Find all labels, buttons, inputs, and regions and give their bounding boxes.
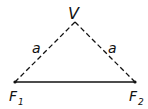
diagram: V a a F 1 F 2 <box>0 0 148 109</box>
focus1-label: F <box>9 88 18 104</box>
focus2-label: F <box>129 88 138 104</box>
side-right-label: a <box>108 40 117 56</box>
side-v-f1 <box>15 22 75 82</box>
focus2-subscript: 2 <box>138 97 144 107</box>
point-f2 <box>133 80 136 83</box>
point-f1 <box>13 80 16 83</box>
side-v-f2 <box>75 22 135 82</box>
vertex-label: V <box>68 4 80 23</box>
side-left-label: a <box>32 40 41 56</box>
focus1-subscript: 1 <box>18 97 24 107</box>
triangle-diagram: V a a F 1 F 2 <box>0 0 148 109</box>
